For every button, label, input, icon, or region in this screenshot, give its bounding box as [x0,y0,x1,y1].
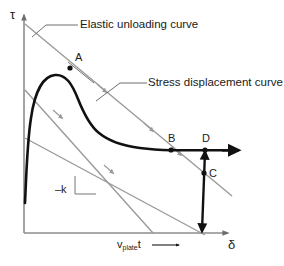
plot-canvas [0,0,284,266]
elastic-unloading-lines [25,24,232,235]
marker-dot-a [67,65,72,70]
x-axis-note: vplatet [117,239,141,250]
y-axis-label: τ [10,8,15,21]
marker-dot-d [202,147,207,152]
point-label-c: C [209,168,217,179]
unloading-arrow-2 [144,123,153,131]
annotation-elastic-unloading-curve: Elastic unloading curve [80,19,198,31]
unloading-arrow-1 [97,84,106,92]
slope-triangle [75,176,96,194]
vertical-measure-arrow [202,152,205,231]
annotation-stress-displacement-curve: Stress displacement curve [148,77,283,89]
unloading-line-middle [25,90,153,233]
x-axis-note-subscript: plate [123,244,138,251]
unloading-arrow-5 [104,165,113,173]
x-axis-note-prefix: v [117,238,123,250]
point-label-b: B [168,133,175,144]
slope-label-minus-k: –k [55,184,67,195]
unloading-line-upper [25,24,232,196]
point-label-d: D [202,133,210,144]
x-axis-label: δ [228,238,235,251]
x-axis-note-suffix: t [138,238,141,250]
leader-stress-displacement [96,83,147,101]
unloading-arrow-4 [53,110,62,118]
marker-dot-b [168,147,173,152]
marker-dot-c [201,170,206,175]
point-label-a: A [75,52,82,63]
leader-stress-displacement-2 [68,62,94,83]
leader-lines [32,25,147,101]
stress-displacement-figure: τ δ Elastic unloading curve Stress displ… [0,0,284,266]
